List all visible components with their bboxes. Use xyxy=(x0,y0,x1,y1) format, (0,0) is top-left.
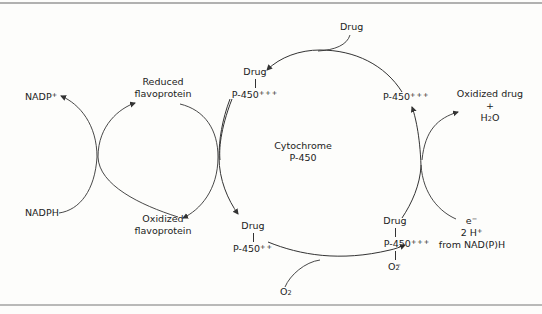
bond-line xyxy=(253,233,254,242)
drug-p450-complex-top: Drug P-450+++ xyxy=(230,66,280,101)
oxygen-input-label: O2 xyxy=(280,286,292,298)
products-label: Oxidized drug + H2O xyxy=(450,88,530,124)
bond-line xyxy=(255,79,256,88)
cytochrome-p450-label: Cytochrome P-450 xyxy=(258,140,348,164)
p450-oxidized-label: P-450+++ xyxy=(383,91,429,103)
drug-input-label: Drug xyxy=(340,21,363,33)
drug-p450-superoxide-complex: Drug P-450+++ O2− xyxy=(370,215,420,273)
nadph-label: NADPH xyxy=(25,207,59,219)
bond-line xyxy=(395,228,396,237)
bond-line xyxy=(395,251,396,260)
oxidized-flavoprotein-label: Oxidized flavoprotein xyxy=(133,213,193,237)
electron-proton-input-label: e− 2 H+ from NAD(P)H xyxy=(432,215,512,251)
nadp-plus-label: NADP+ xyxy=(25,91,58,103)
reduced-flavoprotein-label: Reduced flavoprotein xyxy=(133,76,193,100)
drug-p450-reduced-complex: Drug P-450++ xyxy=(228,220,278,255)
